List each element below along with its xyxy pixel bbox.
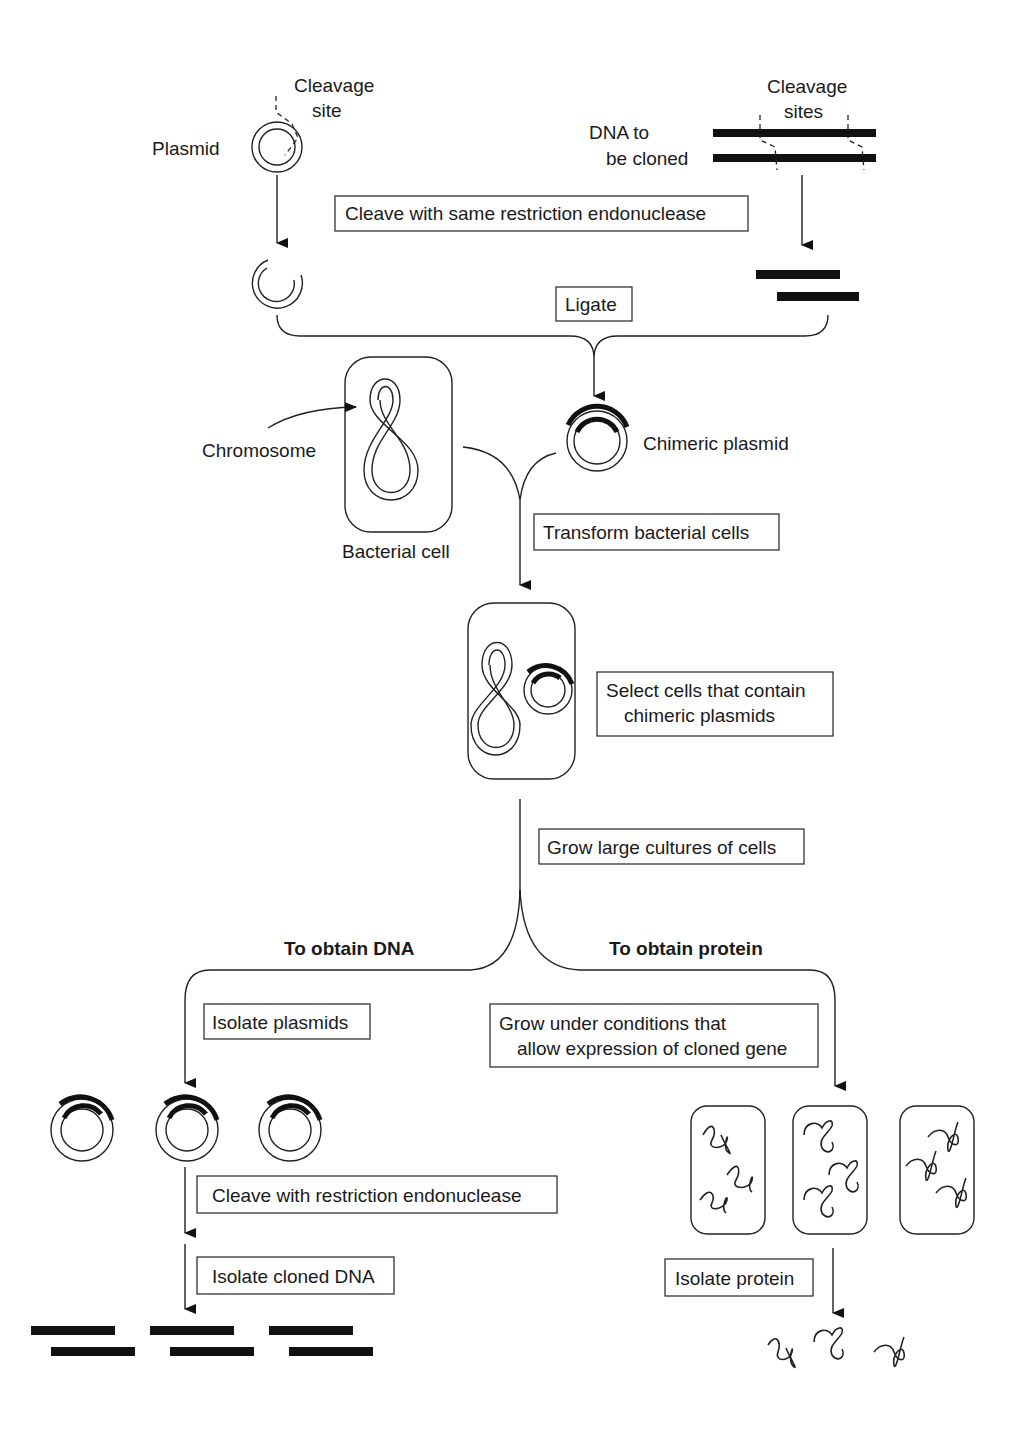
step-grow-conditions: Grow under conditions that allow express… [490,1004,818,1067]
branch-dna-arrow [185,890,520,1083]
plasmid-group: Plasmid Cleavage site [152,75,374,308]
cloned-dna-fragments [31,1326,373,1356]
protein-icon [703,1126,730,1153]
isolated-proteins [768,1328,904,1368]
step-select-label-2: chimeric plasmids [624,705,775,726]
protein-cell-3 [900,1106,974,1234]
step-isolate-protein: Isolate protein [665,1259,813,1296]
isolated-plasmid-3 [259,1097,321,1161]
protein-icon [874,1337,904,1366]
step-select: Select cells that contain chimeric plasm… [597,672,833,736]
step-grow-conditions-label-1: Grow under conditions that [499,1013,727,1034]
protein-icon [906,1151,936,1180]
to-obtain-protein-label: To obtain protein [609,938,763,959]
to-obtain-dna-label: To obtain DNA [284,938,415,959]
isolated-plasmid-1 [51,1097,113,1161]
cleavage-sites-label-2: sites [784,101,823,122]
cloning-diagram: Plasmid Cleavage site Cleavage sites DNA… [0,0,1023,1456]
bacterial-cell-label: Bacterial cell [342,541,450,562]
protein-icon [814,1328,843,1359]
plasmid-icon [252,122,302,172]
protein-icon [804,1121,833,1152]
step-grow-conditions-label-2: allow expression of cloned gene [517,1038,787,1059]
chimeric-plasmid-icon [567,406,627,471]
protein-icon [804,1186,833,1217]
transformed-cell-group [468,603,575,779]
step-ligate: Ligate [556,287,632,321]
bacterial-cell-group: Chromosome Bacterial cell [202,357,452,562]
step-ligate-label: Ligate [565,294,617,315]
step-cleave-same: Cleave with same restriction endonucleas… [335,196,748,231]
step-select-label-1: Select cells that contain [606,680,806,701]
chromosome-icon [471,643,520,756]
plasmid-label: Plasmid [152,138,220,159]
protein-icon [700,1192,727,1213]
step-cleave-restriction-label: Cleave with restriction endonuclease [212,1185,521,1206]
step-isolate-cloned-dna-label: Isolate cloned DNA [212,1266,375,1287]
protein-icon [936,1178,966,1207]
step-isolate-plasmids-label: Isolate plasmids [212,1012,348,1033]
step-transform-label: Transform bacterial cells [543,522,749,543]
cleavage-site-label-1: Cleavage [294,75,374,96]
dna-to-clone-group: Cleavage sites DNA to be cloned [589,76,876,301]
step-grow-cultures: Grow large cultures of cells [539,829,804,864]
step-cleave-restriction: Cleave with restriction endonuclease [197,1176,557,1213]
chimeric-plasmid-label: Chimeric plasmid [643,433,789,454]
ligate-bracket [277,315,828,358]
dna-fragment-top [756,270,840,279]
dna-fragment-bottom [777,292,859,301]
chromosome-icon [364,379,418,500]
cleaved-plasmid-icon [252,260,302,308]
protein-icon [768,1339,795,1368]
transform-merge-lines [463,447,556,500]
chromosome-pointer-arrow [268,407,356,428]
protein-cell-2 [793,1106,867,1234]
step-isolate-plasmids: Isolate plasmids [204,1004,370,1039]
protein-icon [829,1161,858,1192]
step-isolate-protein-label: Isolate protein [675,1268,794,1289]
cleavage-sites-label-1: Cleavage [767,76,847,97]
protein-cell-1 [691,1106,765,1234]
chimeric-plasmid-group: Chimeric plasmid [567,406,789,471]
chromosome-label: Chromosome [202,440,316,461]
dna-to-be-cloned-label-1: DNA to [589,122,649,143]
step-isolate-cloned-dna: Isolate cloned DNA [197,1257,394,1294]
protein-icon [727,1166,752,1192]
bacterial-cell-icon [345,357,452,532]
dna-strand-bottom [713,154,876,162]
dna-to-be-cloned-label-2: be cloned [606,148,688,169]
protein-icon [928,1122,958,1151]
chimeric-plasmid-icon [524,666,572,714]
step-grow-cultures-label: Grow large cultures of cells [547,837,776,858]
step-transform: Transform bacterial cells [534,514,779,550]
cleavage-site-label-2: site [312,100,342,121]
step-cleave-same-label: Cleave with same restriction endonucleas… [345,203,706,224]
dna-strand-top [713,129,876,137]
isolated-plasmid-2 [156,1097,218,1161]
